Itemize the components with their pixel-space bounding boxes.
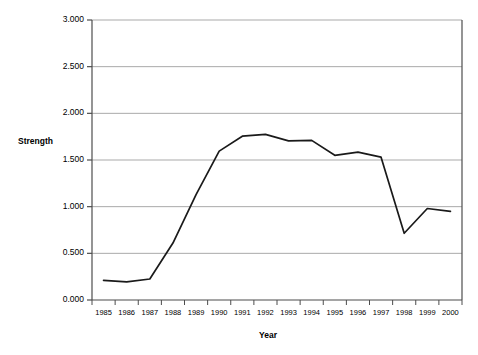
x-axis-tick-label: 1989 — [185, 308, 208, 317]
x-axis-tick-label: 1996 — [346, 308, 369, 317]
y-axis-tick-label: 1.000 — [40, 201, 84, 211]
x-axis-tick-label: 2000 — [439, 308, 462, 317]
y-axis-tick-label: 0.000 — [40, 294, 84, 304]
x-axis-tick-label: 1998 — [393, 308, 416, 317]
x-axis-tick-label: 1992 — [254, 308, 277, 317]
x-axis-tick-label: 1999 — [416, 308, 439, 317]
gridlines — [92, 20, 462, 253]
x-axis-tick-label: 1991 — [231, 308, 254, 317]
line-chart: Strength Year 0.0000.5001.0001.5002.0002… — [0, 0, 478, 355]
y-axis-title: Strength — [18, 136, 53, 146]
x-axis-tick-label: 1993 — [277, 308, 300, 317]
y-axis-tick-label: 1.500 — [40, 154, 84, 164]
y-axis-tick-label: 2.500 — [40, 61, 84, 71]
data-series-line — [104, 134, 451, 281]
x-axis-tick-label: 1995 — [323, 308, 346, 317]
y-axis-tick-label: 0.500 — [40, 247, 84, 257]
y-axis-tick-label: 3.000 — [40, 14, 84, 24]
y-axis-tick-label: 2.000 — [40, 107, 84, 117]
x-axis-tick-label: 1986 — [115, 308, 138, 317]
x-axis-title: Year — [259, 330, 277, 340]
x-axis-tick-label: 1987 — [138, 308, 161, 317]
x-axis-tick-label: 1988 — [161, 308, 184, 317]
x-axis-tick-label: 1994 — [300, 308, 323, 317]
x-axis-tick-label: 1990 — [208, 308, 231, 317]
x-axis-tick-label: 1985 — [92, 308, 115, 317]
y-axis-ticks — [87, 20, 92, 300]
x-axis-ticks — [92, 300, 462, 305]
x-axis-tick-label: 1997 — [370, 308, 393, 317]
